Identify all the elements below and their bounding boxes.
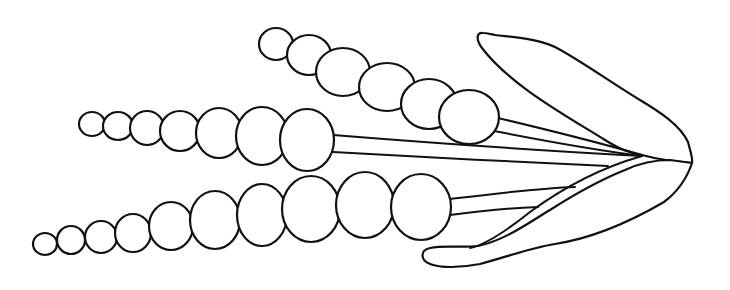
lower-spike bbox=[33, 172, 451, 255]
lower-bead-5 bbox=[149, 202, 193, 250]
middle-bead-1 bbox=[79, 112, 105, 136]
lower-bead-4 bbox=[115, 214, 151, 252]
lower-bead-10 bbox=[391, 174, 451, 240]
lower-bead-7 bbox=[237, 184, 287, 246]
upper-leaf bbox=[478, 33, 693, 163]
lower-bead-3 bbox=[85, 221, 117, 253]
lower-bead-1 bbox=[33, 233, 57, 255]
middle-spike-stalk-2 bbox=[333, 152, 608, 166]
botanical-illustration bbox=[0, 0, 730, 290]
lower-bead-8 bbox=[282, 176, 340, 242]
middle-bead-7 bbox=[280, 109, 334, 171]
upper-bead-6 bbox=[439, 90, 499, 144]
lower-spike-stalk-1 bbox=[450, 187, 575, 199]
plant-drawing bbox=[0, 0, 730, 290]
lower-bead-6 bbox=[190, 191, 240, 249]
lower-bead-9 bbox=[336, 172, 394, 238]
middle-spike bbox=[79, 107, 334, 171]
middle-bead-3 bbox=[130, 111, 164, 145]
lower-bead-2 bbox=[57, 226, 85, 254]
lower-spike-stalk-2 bbox=[450, 207, 538, 215]
middle-bead-2 bbox=[103, 112, 133, 140]
middle-bead-4 bbox=[160, 111, 200, 151]
